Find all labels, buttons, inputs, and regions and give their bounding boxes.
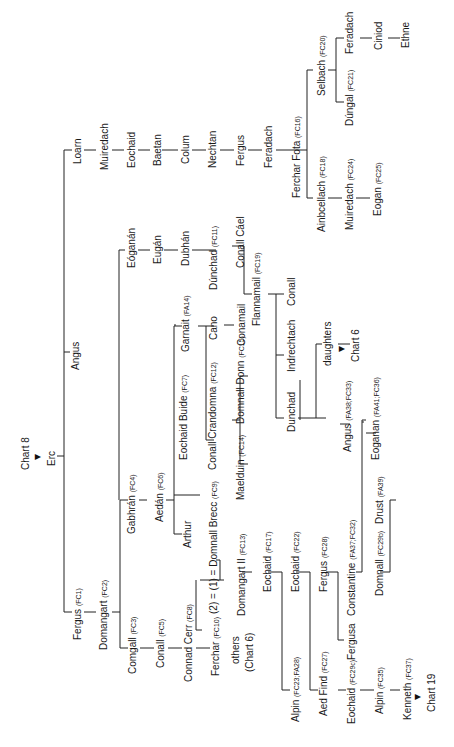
chart6-ref[interactable]: Chart 6 [350,329,361,362]
person-nechtan: Nechtan [207,131,218,168]
person-connad-cerr: Connad Cerr (FC8) [183,604,195,682]
person-eochaid-buide: Eochaid Buide (FC7) [178,375,190,460]
person-garnait: Garnait (FA14) [180,295,192,352]
person-conall-fc5: Conall (FC5) [155,619,167,668]
person-indrechtach: Indrechtach [286,320,297,372]
person-dunchad: Dunchad [286,392,297,432]
person-domnall-brecc: (2) = (1) = Domnall Brecc (FC9) [208,481,220,614]
chart19-ref[interactable]: Chart 19 [426,674,437,712]
person-ferchar-fc10: Ferchar (FC10) [210,617,222,676]
person-ainbcellach: Ainbcellach (FC18) [316,156,328,232]
person-eochaid-fc29c: Eochaid (FC29c) [346,660,358,724]
person-alpin-fc35: Alpin (FC35) [374,667,386,714]
genealogy-chart: Chart 8 ▼ Erc Angus Loarn Muiredach Eoch… [0,0,454,747]
person-muiredach-fc24: Muiredach (FC24) [344,159,356,230]
person-feradach: Feradach [263,126,274,168]
person-eochaid: Eochaid [126,132,137,168]
person-erc: Erc [46,451,57,466]
person-gabhran: Gabhrán (FC4) [126,474,138,534]
person-eochaid-fc22: Eochaid (FC22) [290,531,302,592]
person-others: others [230,636,241,664]
person-domangart: Domangart (FC2) [98,580,110,650]
person-colum: Colum [180,135,191,164]
person-dubhan: Dubhán [180,231,191,266]
person-aedan: Aedán (FC6) [154,472,166,522]
person-eugan: Eugán [152,235,163,264]
arrow-icon: ▼ [414,694,422,700]
person-domangart-ii: Domangart II (FC13) [236,534,248,616]
root-chart-ref[interactable]: Chart 8 [20,437,31,470]
person-ethne: Ethne [400,22,411,48]
person-conall-cael: Conall Cáel [235,216,246,268]
person-eochaid-fc17: Eochaid (FC17) [262,531,274,592]
person-selbach: Selbach (FC20) [316,35,328,96]
person-conall: Conall [286,278,297,306]
person-kenneth: Kenneth (FC37) [402,658,414,720]
person-fergus: Fergus [235,135,246,166]
person-dunchad-fc11: Dúnchad (FC11) [208,226,220,290]
person-alpin-fc23: Alpin (FC23;FA28) [290,657,302,722]
others-chart6-ref[interactable]: (Chart 6) [244,633,255,672]
person-fergusa: Fergusa [346,623,357,660]
person-fergus-fc28: Fergus (FC28) [318,536,330,592]
person-aed-find: Aed Find (FC27) [318,651,330,716]
connector-lines [0,0,454,747]
person-cano: Cano [208,316,219,340]
person-comgall: Comgall (FC3) [127,617,139,674]
person-eoganan-fa41: Eoganan (FA41;FC36) [370,377,382,460]
person-flannamail: Flannamail (FC19) [251,253,263,326]
person-baetan: Baetan [152,134,163,166]
arrow-icon: ▼ [338,346,346,352]
person-angus-fa38: Angus (FA38;FC33) [342,381,354,452]
person-domnall-fc29b: Domnall (FC29b) [374,531,386,596]
person-muiredach: Muiredach [99,123,110,170]
person-loarn: Loarn [72,138,83,164]
person-angus: Angus [70,342,81,370]
person-daughters: daughters [322,322,333,366]
person-dungal: Dúngal (FC21) [344,70,356,126]
person-eoganan: Eóganán [126,228,137,268]
person-ferchar-fota: Ferchar Fota (FC16) [291,116,303,198]
person-ciniod: Ciniod [373,22,384,50]
person-constantine: Constantine (FA37;FC32) [346,520,358,616]
person-fergus-fc1: Fergus (FC1) [72,588,84,640]
person-conall-crandomna: Conall Crandomna (FC12) [207,362,219,470]
person-domnall-donn: Domnall Donn (FC15) [235,336,247,424]
person-feradach-s: Feradach [344,12,355,54]
person-drust: Drust (FA39) [374,476,386,524]
person-arthur: Arthur [182,521,193,548]
arrow-icon: ▼ [34,454,42,460]
person-eogan-fc25: Eogan (FC25) [372,163,384,216]
person-maelduin: Maelduin (FC14) [235,435,247,500]
